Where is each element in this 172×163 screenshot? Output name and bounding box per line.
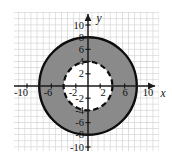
y-tick-label: -4: [75, 105, 84, 116]
graph-figure: -10 -6 -2 2 6 10 10 8 6 4 2 -2 -4 -6 -8 …: [0, 0, 172, 163]
y-tick-label: -8: [75, 129, 84, 140]
y-tick-label: 4: [79, 56, 85, 67]
y-tick-label: 6: [79, 44, 84, 55]
y-tick-label: -10: [70, 142, 84, 153]
y-tick-label: 8: [79, 32, 84, 43]
y-tick-label: 2: [79, 68, 84, 79]
x-axis-label: x: [159, 87, 166, 99]
x-tick-label: -6: [44, 87, 53, 98]
x-tick-label: 2: [100, 87, 105, 98]
x-tick-label: 10: [143, 87, 154, 98]
y-tick-label: -2: [75, 93, 84, 104]
x-tick-label: -10: [14, 87, 28, 98]
x-tick-label: 6: [122, 87, 127, 98]
coordinate-plane-svg: -10 -6 -2 2 6 10 10 8 6 4 2 -2 -4 -6 -8 …: [0, 0, 172, 163]
y-tick-label: 10: [74, 20, 85, 31]
y-axis-label: y: [95, 12, 102, 25]
y-tick-label: -6: [75, 117, 84, 128]
